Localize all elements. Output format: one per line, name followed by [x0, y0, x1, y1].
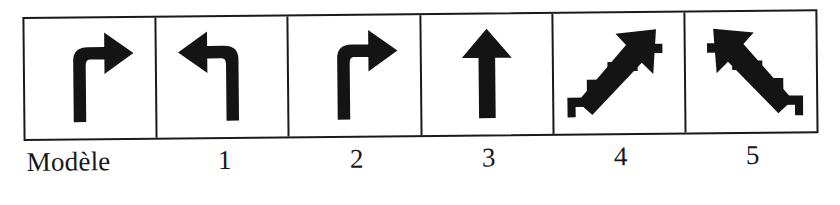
caption-model: Modèle	[24, 147, 159, 192]
arrow-up-stairs-icon	[566, 21, 671, 126]
caption-row: Modèle 1 2 3 4 5	[24, 140, 819, 192]
arrow-direction-figure: Modèle 1 2 3 4 5	[0, 0, 840, 205]
figure-tilt-wrapper: Modèle 1 2 3 4 5	[0, 0, 840, 205]
panel-option-1[interactable]	[157, 16, 290, 137]
arrow-up-then-left-icon	[170, 25, 275, 130]
caption-option-2: 2	[291, 144, 423, 189]
caption-option-1: 1	[159, 145, 291, 190]
panel-model[interactable]	[24, 18, 157, 139]
caption-option-3: 3	[423, 143, 555, 188]
arrow-straight-up-icon	[434, 22, 539, 127]
arrow-up-then-right-icon	[38, 26, 143, 131]
panel-option-5[interactable]	[685, 11, 816, 132]
panel-option-3[interactable]	[421, 14, 554, 135]
pictogram-row	[22, 9, 818, 141]
caption-option-4: 4	[555, 142, 687, 187]
arrow-down-stairs-icon	[698, 19, 803, 124]
caption-option-5: 5	[687, 140, 819, 185]
arrow-up-then-right-icon	[302, 23, 407, 128]
panel-option-2[interactable]	[289, 15, 422, 136]
panel-option-4[interactable]	[553, 13, 686, 134]
